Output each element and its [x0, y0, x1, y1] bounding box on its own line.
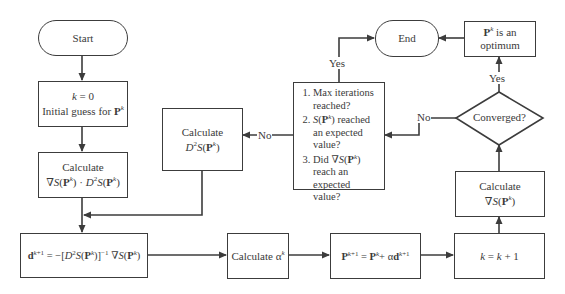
- calc-hess-title: Calculate: [182, 125, 224, 140]
- init-box: k = 0 Initial guess for Pk: [38, 81, 128, 127]
- update-box: Pk+1 = Pk+ αdk+1: [330, 233, 421, 279]
- criteria-gradient: Did ∇S(Pk) reach an expected value?: [313, 154, 380, 204]
- calc-grad-box: Calculate ∇S(Pk): [455, 171, 545, 217]
- init-guess: Initial guess for Pk: [42, 104, 124, 119]
- calc-hess-formula: D2S(Pk): [185, 140, 219, 155]
- criteria-no-label: No: [257, 129, 272, 141]
- start-label: Start: [73, 31, 94, 46]
- calc-grad-hess-box: Calculate ∇S(Pk) · D2S(Pk): [38, 152, 128, 198]
- optimum-line2: optimum: [480, 39, 520, 52]
- init-k-zero: k = 0: [72, 89, 94, 104]
- converged-label: Converged?: [473, 111, 526, 123]
- direction-box: dk+1 = −[D2S(Pk)]−1 ∇S(Pk): [20, 233, 148, 278]
- calc-alpha-label: Calculate αk: [231, 249, 284, 264]
- calc-grad-title: Calculate: [479, 179, 521, 194]
- criteria-max-iterations: Max iterations reached?: [313, 87, 380, 112]
- converged-yes-label: Yes: [488, 72, 506, 84]
- criteria-s-value: S(Pk) reached an expected value?: [313, 114, 380, 152]
- converged-decision: Converged?: [462, 111, 537, 123]
- end-terminator: End: [375, 20, 439, 57]
- optimum-box: Pk is an optimum: [464, 21, 536, 57]
- calc-hess-box: Calculate D2S(Pk): [162, 108, 243, 171]
- stop-criteria-box: Max iterations reached? S(Pk) reached an…: [293, 82, 385, 190]
- optimum-line1: Pk is an: [483, 26, 516, 39]
- increment-formula: k = k + 1: [480, 249, 519, 264]
- calc-alpha-box: Calculate αk: [227, 233, 289, 279]
- calc-grad-hess-formula: ∇S(Pk) · D2S(Pk): [46, 175, 120, 190]
- end-label: End: [398, 31, 416, 46]
- calc-grad-hess-title: Calculate: [62, 160, 104, 175]
- update-formula: Pk+1 = Pk+ αdk+1: [341, 249, 409, 264]
- calc-grad-formula: ∇S(Pk): [485, 194, 515, 209]
- direction-formula: dk+1 = −[D2S(Pk)]−1 ∇S(Pk): [28, 248, 141, 263]
- criteria-yes-label: Yes: [328, 57, 346, 69]
- converged-no-label: No: [416, 111, 431, 123]
- increment-box: k = k + 1: [454, 233, 545, 279]
- start-terminator: Start: [38, 20, 128, 56]
